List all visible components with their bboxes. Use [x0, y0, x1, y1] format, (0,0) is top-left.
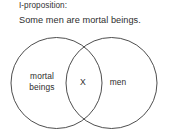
right-circle-label: men	[96, 77, 140, 88]
venn-diagram: mortal beings X men	[0, 0, 169, 135]
venn-svg	[0, 0, 169, 135]
venn-diagram-figure: I-proposition: Some men are mortal being…	[0, 0, 169, 135]
intersection-x-marker: X	[74, 77, 92, 88]
left-circle-label: mortal beings	[14, 71, 70, 93]
